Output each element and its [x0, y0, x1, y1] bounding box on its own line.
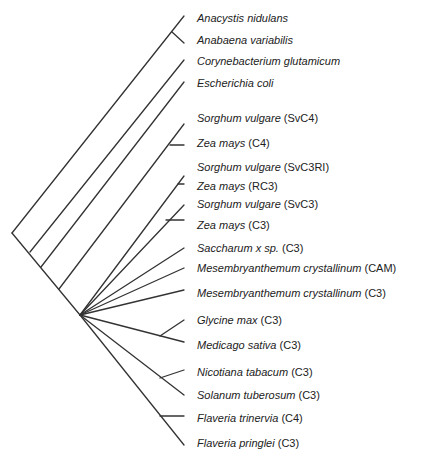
taxon-label: Saccharum x sp. (C3): [197, 242, 303, 255]
taxon-label: Zea mays (RC3): [197, 180, 278, 193]
taxon-label: Medicago sativa (C3): [197, 339, 301, 352]
taxon-label: Sorghum vulgare (SvC3): [197, 198, 318, 211]
taxon-label: Flaveria pringlei (C3): [197, 437, 299, 450]
taxon-label: Anacystis nidulans: [197, 12, 288, 25]
taxon-label: Mesembryanthemum crystallinum (CAM): [197, 262, 396, 275]
taxon-label: Glycine max (C3): [197, 314, 282, 327]
taxon-label: Sorghum vulgare (SvC3RI): [197, 161, 329, 174]
taxon-label: Mesembryanthemum crystallinum (C3): [197, 287, 386, 300]
taxon-labels: Anacystis nidulans Anabaena variabilis C…: [0, 0, 427, 464]
taxon-label: Flaveria trinervia (C4): [197, 412, 303, 425]
taxon-label: Nicotiana tabacum (C3): [197, 366, 313, 379]
taxon-label: Escherichia coli: [197, 77, 273, 90]
taxon-label: Zea mays (C4): [197, 137, 270, 150]
taxon-label: Anabaena variabilis: [197, 34, 293, 47]
taxon-label: Sorghum vulgare (SvC4): [197, 112, 318, 125]
taxon-label: Zea mays (C3): [197, 219, 270, 232]
taxon-label: Solanum tuberosum (C3): [197, 389, 320, 402]
taxon-label: Corynebacterium glutamicum: [197, 55, 340, 68]
